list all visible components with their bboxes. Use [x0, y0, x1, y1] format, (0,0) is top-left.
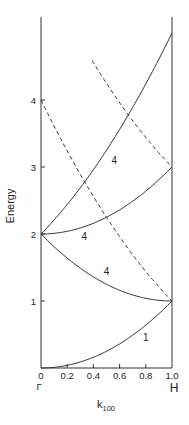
band-curves: [41, 33, 172, 368]
band-structure-chart: 123400.20.40.60.81.0 1444 Energy k100 Γ …: [0, 0, 189, 425]
band-curve-dashed-upper-to-3: [92, 60, 172, 167]
degeneracy-label: 4: [104, 266, 110, 277]
x-tick-label: 0.4: [87, 370, 100, 381]
h-point-label: H: [170, 381, 179, 395]
band-curve-band-2-to-5: [41, 33, 172, 234]
x-axis-title-subscript: 100: [103, 404, 116, 413]
x-tick-label: 0: [38, 370, 43, 381]
axes: 123400.20.40.60.81.0: [31, 17, 179, 381]
degeneracy-label: 1: [143, 332, 149, 343]
x-tick-label: 0.2: [61, 370, 74, 381]
gamma-point-label: Γ: [36, 381, 41, 392]
y-tick-label: 2: [31, 229, 36, 240]
band-curve-band-1: [41, 301, 172, 368]
chart-labels: 1444: [81, 155, 149, 344]
y-tick-label: 3: [31, 162, 36, 173]
x-tick-label: 1.0: [165, 370, 178, 381]
x-axis-title: k100: [97, 398, 115, 413]
x-tick-label: 0.6: [113, 370, 126, 381]
y-tick-label: 1: [31, 296, 36, 307]
y-axis-title: Energy: [4, 188, 16, 223]
degeneracy-label: 4: [81, 231, 87, 242]
y-tick-label: 4: [31, 95, 36, 106]
degeneracy-label: 4: [112, 155, 118, 166]
x-tick-label: 0.8: [139, 370, 152, 381]
band-curve-band-2-to-3: [41, 167, 172, 234]
